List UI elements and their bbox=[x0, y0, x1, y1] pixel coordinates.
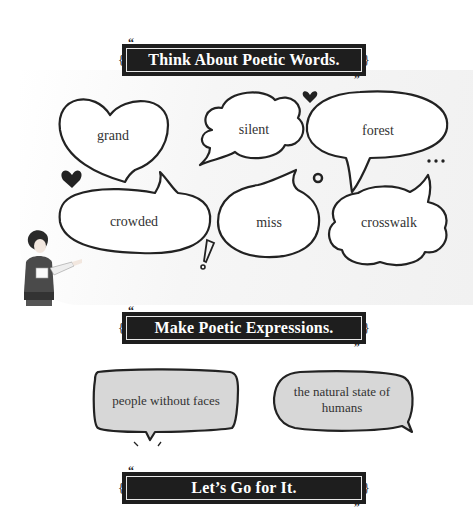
left-brace-icon: { bbox=[118, 480, 124, 496]
word-miss: miss bbox=[256, 215, 282, 231]
word-grand: grand bbox=[97, 128, 129, 144]
banner-title: Make Poetic Expressions. bbox=[154, 319, 333, 337]
heart-icon-dark bbox=[61, 171, 81, 188]
bubble-illustrations bbox=[0, 0, 473, 526]
close-quote-icon: ” bbox=[354, 501, 360, 513]
oval-bubble-miss bbox=[218, 170, 319, 257]
right-brace-icon: } bbox=[364, 480, 370, 496]
expression-natural-state: the natural state of humans bbox=[294, 384, 390, 416]
blob-bubble-crowded bbox=[60, 172, 211, 253]
word-forest: forest bbox=[362, 123, 394, 139]
exclamation-icon bbox=[204, 240, 214, 262]
word-crowded: crowded bbox=[110, 214, 158, 230]
word-silent: silent bbox=[239, 122, 269, 138]
open-quote-icon: “ bbox=[128, 305, 134, 317]
right-brace-icon: } bbox=[364, 320, 370, 336]
circle-icon bbox=[314, 174, 322, 182]
section-banner-go: “ { Let’s Go for It. } ” bbox=[122, 472, 366, 504]
left-brace-icon: { bbox=[118, 320, 124, 336]
section-banner-make: “ { Make Poetic Expressions. } ” bbox=[122, 312, 366, 344]
close-quote-icon: ” bbox=[354, 341, 360, 353]
word-crosswalk: crosswalk bbox=[361, 215, 417, 231]
open-quote-icon: “ bbox=[128, 465, 134, 477]
heart-icon-small bbox=[303, 91, 318, 103]
teacher-character-illustration bbox=[24, 230, 82, 306]
banner-title: Let’s Go for It. bbox=[191, 479, 296, 497]
expression-people-without-faces: people without faces bbox=[112, 393, 220, 409]
